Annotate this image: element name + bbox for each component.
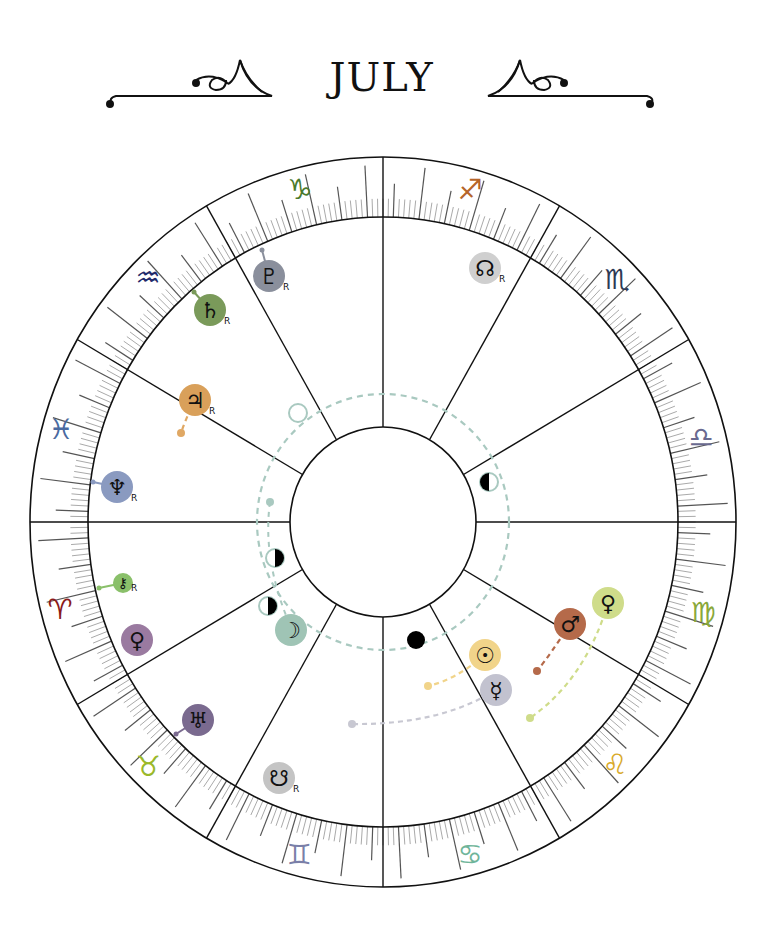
planet-venus[interactable]: ♀ — [592, 587, 624, 619]
planet-uranus[interactable]: ♅ — [182, 704, 214, 736]
sign-libra-icon: ♎ — [688, 421, 713, 454]
planet-north-node[interactable]: ☊R — [469, 252, 505, 284]
sign-leo-icon: ♌ — [602, 748, 627, 781]
pluto-icon: ♇ — [259, 264, 279, 289]
sign-taurus-icon: ♉ — [135, 750, 160, 783]
mercury-icon: ☿ — [489, 678, 503, 703]
sign-capricorn-icon: ♑ — [287, 173, 312, 206]
retrograde-badge: R — [131, 583, 137, 593]
retrograde-badge: R — [499, 274, 505, 284]
trail-end-dot — [424, 682, 432, 690]
moon-phase-last-quarter-icon — [259, 597, 277, 615]
planet-moon[interactable]: ☽ — [275, 614, 307, 646]
retrograde-badge: R — [283, 282, 289, 292]
uranus-icon: ♅ — [188, 708, 208, 733]
astro-wheel: ♑♐♏♎♍♌♋♊♉♈♓♒♇R♄R♃R♆R⚷R♀♅☋R☊R☉☿♂♀☽ — [0, 0, 763, 934]
neptune-icon: ♆ — [107, 475, 127, 500]
motion-trail — [352, 690, 496, 724]
retrograde-badge: R — [209, 406, 215, 416]
inner-circle — [290, 427, 476, 617]
planet-saturn[interactable]: ♄R — [194, 294, 230, 326]
planet-jupiter[interactable]: ♃R — [179, 384, 215, 416]
moon-phase-new-moon-icon — [407, 631, 425, 649]
house-cusp-line — [207, 604, 337, 838]
house-cusp-line — [430, 206, 560, 440]
planet-pluto[interactable]: ♇R — [253, 260, 289, 292]
chiron-icon: ⚷ — [118, 575, 128, 591]
venus-alt-icon: ♀ — [129, 628, 145, 653]
planet-mars[interactable]: ♂ — [554, 608, 586, 640]
moon-phase-last-quarter-icon — [266, 549, 284, 567]
house-cusp-line — [464, 340, 689, 475]
saturn-icon: ♄ — [200, 298, 220, 323]
planet-chiron[interactable]: ⚷R — [113, 573, 137, 593]
trail-end-dot — [348, 720, 356, 728]
sun-icon: ☉ — [475, 643, 495, 668]
house-cusp-line — [430, 604, 560, 838]
trail-end-dot — [177, 429, 185, 437]
planet-sun[interactable]: ☉ — [469, 639, 501, 671]
sign-aries-icon: ♈ — [47, 593, 72, 626]
moon-phase-first-quarter-icon — [480, 473, 498, 491]
retrograde-badge: R — [131, 493, 137, 503]
house-cusp-line — [77, 570, 302, 705]
sign-scorpio-icon: ♏ — [604, 263, 629, 296]
sign-cancer-icon: ♋ — [457, 838, 482, 871]
trail-end-dot — [533, 667, 541, 675]
mars-icon: ♂ — [560, 612, 580, 637]
planet-neptune[interactable]: ♆R — [101, 471, 137, 503]
trail-end-dot — [526, 714, 534, 722]
planet-venus-alt[interactable]: ♀ — [121, 624, 153, 656]
planet-south-node[interactable]: ☋R — [263, 762, 299, 794]
retrograde-badge: R — [224, 316, 230, 326]
sign-sagittarius-icon: ♐ — [457, 173, 482, 206]
venus-icon: ♀ — [600, 591, 616, 616]
moon-icon: ☽ — [281, 618, 301, 643]
jupiter-icon: ♃ — [185, 388, 205, 413]
moon-phase-full-moon-icon — [289, 404, 307, 422]
sign-pisces-icon: ♓ — [48, 413, 73, 446]
retrograde-badge: R — [293, 784, 299, 794]
south-node-icon: ☋ — [269, 766, 289, 791]
planet-mercury[interactable]: ☿ — [480, 674, 512, 706]
sign-gemini-icon: ♊ — [286, 838, 311, 871]
north-node-icon: ☊ — [475, 256, 495, 281]
sign-virgo-icon: ♍ — [690, 596, 715, 629]
sign-aquarius-icon: ♒ — [135, 261, 160, 294]
